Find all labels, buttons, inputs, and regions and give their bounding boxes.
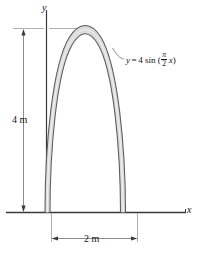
horizontal-dimension-arrow-left [52,237,59,241]
vertical-dimension-arrow-top [21,29,25,36]
equation-amplitude: 4 [138,55,143,65]
arch-figure [0,0,199,265]
horizontal-dimension-arrow-right [131,237,138,241]
arch-band [45,25,126,212]
equation-leader-line [113,48,125,59]
arch-inner-highlight [47,30,123,213]
equation-lhs: y [126,55,130,65]
equation-function: sin [145,55,156,65]
curve-equation-label: y=4sin(π2x) [126,51,176,68]
equation-denominator: 2 [161,60,167,68]
y-axis-label: y [42,3,46,13]
horizontal-dimension-label: 2 m [84,234,99,244]
equation-numerator: π [161,51,167,59]
equation-close-paren: ) [173,55,176,65]
x-axis-label: x [187,205,191,215]
vertical-dimension-arrow-bottom [21,206,25,213]
equation-fraction: π2 [161,51,167,68]
vertical-dimension-label: 4 m [12,115,27,125]
equation-equals: = [132,55,137,65]
